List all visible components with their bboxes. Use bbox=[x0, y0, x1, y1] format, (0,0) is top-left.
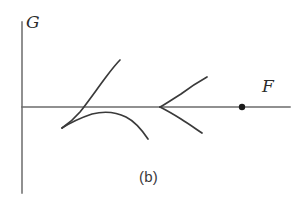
axis-label-f: F bbox=[262, 78, 274, 95]
right-cusp-upper-branch bbox=[160, 77, 207, 107]
right-cusp-lower-branch bbox=[160, 107, 202, 133]
left-cusp-upper-branch bbox=[62, 60, 120, 128]
figure-caption: (b) bbox=[0, 168, 297, 185]
axis-label-g: G bbox=[26, 14, 40, 31]
fixed-point-dot bbox=[239, 104, 245, 110]
bifurcation-figure: G F (b) bbox=[0, 0, 297, 215]
